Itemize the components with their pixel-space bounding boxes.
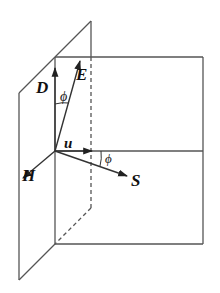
label-e: E <box>75 65 87 84</box>
label-d: D <box>35 78 48 97</box>
label-h: H <box>21 166 36 185</box>
wave-vector-diagram: D E H u S ϕ ϕ <box>0 0 220 293</box>
label-u: u <box>64 135 72 151</box>
label-phi-top: ϕ <box>60 89 67 104</box>
label-phi-right: ϕ <box>105 151 112 166</box>
angle-arc-right <box>100 151 101 166</box>
label-s: S <box>131 171 140 190</box>
